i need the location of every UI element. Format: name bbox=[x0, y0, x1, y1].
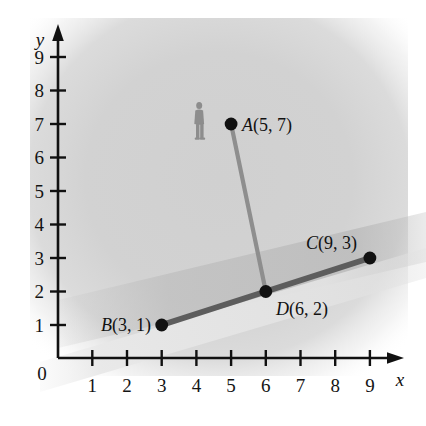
x-tick-label-1: 1 bbox=[88, 375, 98, 396]
point-b-name: B bbox=[101, 315, 112, 335]
point-b-marker[interactable] bbox=[155, 319, 168, 332]
x-tick-label-3: 3 bbox=[157, 375, 167, 396]
y-tick-label-6: 6 bbox=[35, 147, 45, 168]
point-d-coords: (6, 2) bbox=[289, 299, 328, 320]
x-tick-label-5: 5 bbox=[226, 375, 236, 396]
point-a-label: A(5, 7) bbox=[241, 115, 292, 136]
origin-label: 0 bbox=[37, 363, 47, 384]
x-axis-tick-labels: 1 2 3 4 5 6 7 8 9 bbox=[88, 375, 375, 396]
point-b-coords: (3, 1) bbox=[112, 315, 151, 336]
figure-canvas: 1 2 3 4 5 6 7 8 9 1 2 3 4 5 6 7 8 9 bbox=[0, 0, 426, 426]
coordinate-plane-figure: 1 2 3 4 5 6 7 8 9 1 2 3 4 5 6 7 8 9 bbox=[0, 0, 426, 426]
y-tick-label-8: 8 bbox=[35, 80, 45, 101]
y-tick-label-3: 3 bbox=[35, 248, 45, 269]
x-tick-label-9: 9 bbox=[365, 375, 375, 396]
y-tick-label-4: 4 bbox=[35, 214, 45, 235]
y-tick-label-2: 2 bbox=[35, 281, 45, 302]
point-b-label: B(3, 1) bbox=[101, 315, 151, 336]
x-tick-label-7: 7 bbox=[296, 375, 306, 396]
point-a-coords: (5, 7) bbox=[253, 115, 292, 136]
y-tick-label-7: 7 bbox=[35, 114, 45, 135]
point-d-marker[interactable] bbox=[259, 285, 272, 298]
x-tick-label-6: 6 bbox=[261, 375, 271, 396]
x-tick-label-8: 8 bbox=[330, 375, 340, 396]
y-axis-tick-labels: 1 2 3 4 5 6 7 8 9 bbox=[35, 47, 45, 336]
x-tick-label-4: 4 bbox=[192, 375, 202, 396]
point-a-marker[interactable] bbox=[225, 118, 238, 131]
point-c-coords: (9, 3) bbox=[318, 233, 357, 254]
y-tick-label-5: 5 bbox=[35, 181, 45, 202]
y-axis-label: y bbox=[34, 29, 45, 50]
y-tick-label-1: 1 bbox=[35, 315, 45, 336]
point-c-label: C(9, 3) bbox=[306, 233, 357, 254]
point-d-label: D(6, 2) bbox=[275, 299, 328, 320]
x-tick-label-2: 2 bbox=[122, 375, 132, 396]
x-axis-label: x bbox=[395, 369, 405, 390]
point-c-marker[interactable] bbox=[364, 252, 377, 265]
point-d-name: D bbox=[275, 299, 289, 319]
